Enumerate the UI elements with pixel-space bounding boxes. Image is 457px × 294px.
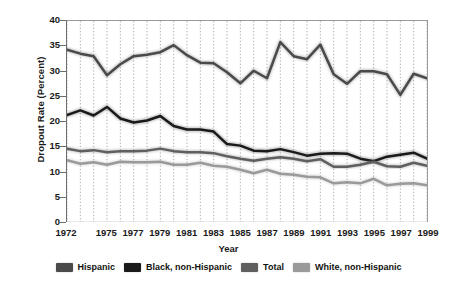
x-tick-label: 1999 (408, 228, 448, 238)
y-tick-label: 15 (36, 141, 60, 151)
y-tick-mark (60, 197, 66, 198)
y-tick-mark (60, 20, 66, 21)
y-tick-label: 0 (36, 217, 60, 227)
chart-figure: Dropout Rate (Percent) 0510152025303540 … (0, 0, 457, 294)
x-tick-label: 1972 (46, 228, 86, 238)
series-line (67, 42, 427, 95)
y-tick-mark (60, 172, 66, 173)
legend-item[interactable]: White, non-Hispanic (293, 262, 402, 272)
y-tick-mark (60, 45, 66, 46)
y-tick-mark (60, 222, 66, 223)
legend-swatch-icon (241, 263, 258, 272)
y-tick-label: 30 (36, 66, 60, 76)
chart-canvas (67, 21, 427, 222)
y-tick-mark (60, 71, 66, 72)
y-tick-mark (60, 121, 66, 122)
y-tick-label: 20 (36, 116, 60, 126)
grid-lines (67, 21, 427, 222)
y-tick-label: 5 (36, 192, 60, 202)
legend-swatch-icon (56, 263, 73, 272)
legend-label: Hispanic (78, 262, 116, 272)
y-tick-label: 25 (36, 91, 60, 101)
y-tick-label: 40 (36, 15, 60, 25)
legend-label: Black, non-Hispanic (146, 262, 232, 272)
y-tick-label: 35 (36, 40, 60, 50)
x-axis-title: Year (0, 243, 457, 254)
legend-swatch-icon (293, 263, 310, 272)
y-tick-mark (60, 96, 66, 97)
x-axis-tick-labels: 1972197519771979198119831985198719891991… (0, 228, 457, 242)
series-line-halo (67, 42, 427, 95)
legend-label: Total (263, 262, 284, 272)
chart-legend: HispanicBlack, non-HispanicTotalWhite, n… (0, 262, 457, 272)
legend-label: White, non-Hispanic (315, 262, 402, 272)
legend-swatch-icon (124, 263, 141, 272)
legend-item[interactable]: Hispanic (56, 262, 116, 272)
y-tick-mark (60, 146, 66, 147)
legend-item[interactable]: Total (241, 262, 284, 272)
legend-item[interactable]: Black, non-Hispanic (124, 262, 232, 272)
plot-area (66, 20, 428, 222)
y-tick-label: 10 (36, 167, 60, 177)
